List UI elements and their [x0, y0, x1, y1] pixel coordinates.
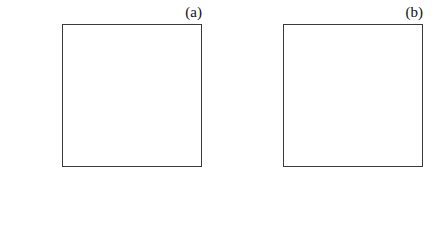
- chart-panel-b: (b): [221, 0, 441, 230]
- plot-lines-b: [221, 0, 441, 230]
- plot-lines-a: [0, 0, 220, 230]
- figure-container: (a) (b): [0, 0, 441, 230]
- chart-panel-a: (a): [0, 0, 220, 230]
